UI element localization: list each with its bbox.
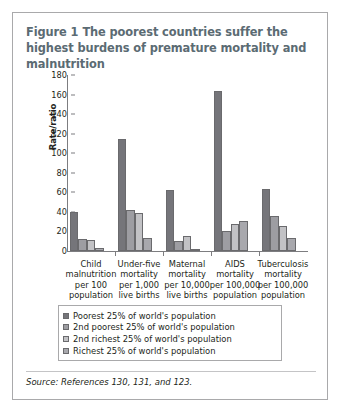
bar	[222, 231, 231, 251]
category-label-line: mortality	[160, 269, 214, 279]
y-axis-tick-label: 40	[33, 207, 67, 217]
y-axis-tick-label: 160	[33, 90, 67, 100]
bar	[70, 212, 79, 251]
y-axis-tick-label: 20	[33, 226, 67, 236]
category-label-line: per 10,000	[160, 280, 214, 290]
category-label-line: Tuberculosis	[256, 259, 310, 269]
category-label-line: live births	[112, 290, 166, 300]
category-label-line: population	[208, 290, 262, 300]
legend-swatch-2nd-richest	[63, 336, 69, 342]
bar	[126, 210, 135, 251]
bar	[191, 249, 200, 251]
bar	[183, 236, 192, 251]
bar	[279, 226, 288, 251]
legend-swatch-poorest	[63, 313, 69, 319]
bar	[287, 238, 296, 251]
category-label-line: mortality	[208, 269, 262, 279]
x-axis-group-tick	[115, 251, 116, 256]
legend-swatch-2nd-poorest	[63, 324, 69, 330]
figure-container: Figure 1The poorest countries suffer the…	[12, 12, 328, 400]
x-axis-category-label: Maternalmortalityper 10,000live births	[160, 259, 214, 301]
bar	[78, 239, 87, 251]
y-axis-tick-label: 80	[33, 168, 67, 178]
bar	[135, 213, 144, 251]
y-axis-tick-label: 100	[33, 148, 67, 158]
legend-item-label: 2nd richest 25% of world's population	[73, 334, 232, 344]
category-label-line: per 100,000	[208, 280, 262, 290]
y-axis-tick-label: 60	[33, 187, 67, 197]
source-note: Source: References 130, 131, and 123.	[26, 377, 192, 387]
bar	[87, 240, 96, 251]
bar-chart: Rate/ratio 020406080100120140160180 Chil…	[13, 69, 327, 301]
legend-item-label: Poorest 25% of world's population	[73, 311, 216, 321]
category-label-line: live births	[160, 290, 214, 300]
legend-item: 2nd richest 25% of world's population	[63, 333, 276, 345]
chart-legend: Poorest 25% of world's population2nd poo…	[58, 305, 282, 361]
bar	[95, 248, 104, 251]
category-label-line: malnutrition	[64, 269, 118, 279]
y-axis-tick-label: 140	[33, 109, 67, 119]
y-axis-tick-label: 180	[33, 70, 67, 80]
bar	[166, 190, 175, 251]
x-axis-group-tick	[211, 251, 212, 256]
bar	[214, 91, 223, 251]
legend-item: Poorest 25% of world's population	[63, 310, 276, 322]
category-label-line: Maternal	[160, 259, 214, 269]
bar	[231, 224, 240, 251]
legend-item: 2nd poorest 25% of world's population	[63, 322, 276, 334]
y-axis-tick-label: 120	[33, 129, 67, 139]
bar-group	[118, 75, 166, 251]
bar	[143, 238, 152, 251]
category-label-line: per 1,000	[112, 280, 166, 290]
figure-title: Figure 1The poorest countries suffer the…	[26, 24, 318, 72]
category-label-line: mortality	[112, 269, 166, 279]
x-axis-category-label: Under-fivemortalityper 1,000live births	[112, 259, 166, 301]
category-label-line: per 100	[64, 280, 118, 290]
legend-item-label: Richest 25% of world's population	[73, 346, 216, 356]
bar	[270, 216, 279, 251]
bar	[239, 221, 248, 251]
plot-area	[67, 75, 307, 251]
legend-item: Richest 25% of world's population	[63, 345, 276, 357]
y-axis-tick-label: 0	[33, 246, 67, 256]
bar-group	[214, 75, 262, 251]
bar-group	[166, 75, 214, 251]
category-label-line: population	[256, 290, 310, 300]
category-label-line: mortality	[256, 269, 310, 279]
bar-group	[262, 75, 310, 251]
category-label-line: population	[64, 290, 118, 300]
bar-group	[70, 75, 118, 251]
category-label-line: Under-five	[112, 259, 166, 269]
bar	[174, 241, 183, 251]
bar	[118, 139, 127, 251]
category-label-line: per 100,000	[256, 280, 310, 290]
category-label-line: Child	[64, 259, 118, 269]
x-axis-category-label: Childmalnutritionper 100population	[64, 259, 118, 301]
x-axis-category-label: Tuberculosismortalityper 100,000populati…	[256, 259, 310, 301]
x-axis-category-label: AIDSmortalityper 100,000population	[208, 259, 262, 301]
bar	[262, 189, 271, 251]
legend-item-label: 2nd poorest 25% of world's population	[73, 322, 235, 332]
source-divider	[26, 371, 316, 372]
legend-swatch-richest	[63, 348, 69, 354]
y-axis-ticks: 020406080100120140160180	[23, 75, 67, 251]
x-axis-group-tick	[163, 251, 164, 256]
x-axis-line	[67, 251, 308, 252]
x-axis-group-tick	[259, 251, 260, 256]
category-label-line: AIDS	[208, 259, 262, 269]
figure-number: Figure 1	[26, 25, 78, 39]
